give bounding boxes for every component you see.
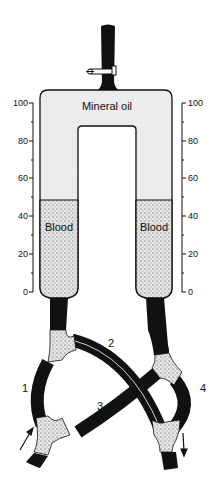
left-upper-junction — [48, 330, 76, 362]
left-tick-60: 60 — [18, 173, 28, 183]
left-outlet-tube — [50, 298, 68, 330]
left-tick-40: 40 — [18, 211, 28, 221]
right-lower-junction — [152, 420, 180, 452]
outflow-arrow-icon — [181, 433, 187, 456]
left-scale — [29, 103, 33, 292]
blood-label-right: Blood — [140, 221, 168, 233]
tube-1 — [37, 362, 48, 425]
top-tube — [96, 25, 120, 93]
left-tick-0: 0 — [23, 287, 28, 297]
clamp-icon — [86, 66, 116, 75]
left-tick-20: 20 — [18, 249, 28, 259]
tube-label-1: 1 — [22, 382, 28, 394]
inlet-tube — [26, 453, 48, 468]
mineral-oil-label: Mineral oil — [82, 100, 132, 112]
right-outlet-tube — [146, 298, 169, 355]
inflow-arrow-icon — [20, 428, 33, 450]
right-tick-80: 80 — [188, 136, 198, 146]
right-tick-0: 0 — [188, 287, 193, 297]
right-scale — [182, 103, 186, 292]
right-tick-20: 20 — [188, 249, 198, 259]
right-tick-40: 40 — [188, 211, 198, 221]
left-tick-80: 80 — [18, 136, 28, 146]
left-tick-100: 100 — [13, 98, 28, 108]
apparatus-diagram: Mineral oil Blood Blood 100 80 60 40 20 … — [0, 0, 224, 484]
tube-label-2: 2 — [108, 337, 114, 349]
left-lower-junction — [34, 416, 70, 455]
tube-label-3: 3 — [97, 400, 103, 412]
right-tick-60: 60 — [188, 173, 198, 183]
tube-label-4: 4 — [200, 382, 206, 394]
outlet-tube — [161, 452, 178, 470]
blood-label-left: Blood — [45, 221, 73, 233]
right-tick-100: 100 — [188, 98, 203, 108]
